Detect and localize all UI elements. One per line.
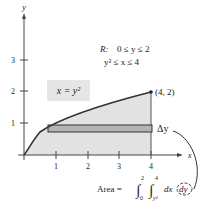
- region-line-2: y² ≤ x ≤ 4: [104, 57, 140, 67]
- region-line-1: 0 ≤ y ≤ 2: [117, 44, 149, 54]
- delta-y-label: Δy: [157, 123, 168, 134]
- x-tick-2: 2: [86, 162, 90, 171]
- y-tick-1: 1: [11, 119, 15, 128]
- outer-upper-limit: 2: [141, 175, 144, 181]
- outer-lower-limit: 0: [140, 195, 143, 201]
- x-axis-label: x: [187, 151, 192, 160]
- y-tick-3: 3: [11, 56, 15, 65]
- point-4-2: [149, 90, 153, 94]
- x-tick-3: 3: [117, 162, 121, 171]
- connector-arc: [173, 131, 197, 189]
- y-tick-2: 2: [11, 87, 15, 96]
- shaded-region: [24, 92, 151, 155]
- x-tick-4: 4: [149, 162, 153, 171]
- area-diagram: 1 2 3 4 1 2 3 y x x = y² (4, 2) R: 0 ≤ y…: [0, 0, 209, 209]
- area-formula: Area = ∫ 2 0 ∫ 4 y² dx dy: [97, 175, 192, 201]
- curve-label: x = y²: [56, 85, 82, 96]
- y-axis-arrow-icon: [22, 13, 26, 19]
- x-axis-arrow-icon: [177, 153, 183, 157]
- area-prefix: Area =: [97, 184, 122, 194]
- circled-dy: dy: [179, 184, 188, 194]
- point-label: (4, 2): [155, 87, 175, 97]
- region-label: R:: [99, 44, 109, 54]
- inner-upper-limit: 4: [155, 175, 158, 181]
- integrand-dx: dx: [164, 184, 173, 194]
- x-tick-1: 1: [54, 162, 58, 171]
- inner-lower-limit: y²: [152, 195, 158, 201]
- y-axis-label: y: [21, 3, 26, 12]
- representative-rectangle: [48, 125, 152, 132]
